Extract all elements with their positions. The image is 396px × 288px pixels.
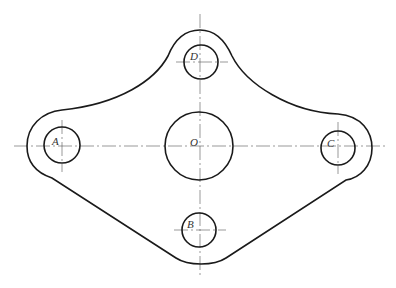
label-o: O — [190, 137, 198, 148]
label-a: A — [52, 136, 59, 147]
label-b: B — [187, 219, 194, 230]
label-d: D — [190, 51, 198, 62]
diagram-canvas: A B C D O — [0, 0, 396, 288]
label-c: C — [327, 138, 334, 149]
plate-drawing — [0, 0, 396, 288]
